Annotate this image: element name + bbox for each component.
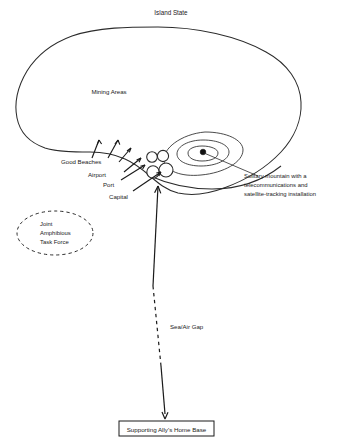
label-sea-air-gap: Sea/Air Gap — [170, 323, 204, 330]
sea-air-gap-axis — [153, 186, 168, 419]
label-port: Port — [103, 181, 114, 188]
label-mountain-note-line1: Solitary mountain with a — [244, 173, 307, 179]
label-task-force-line2: Amphibious — [40, 230, 71, 236]
settlement-circle-capital — [159, 163, 173, 177]
island-state-map: Island State Mining Areas Good Beaches A… — [0, 0, 342, 447]
label-good-beaches: Good Beaches — [61, 158, 101, 165]
mountain-peak-dot — [200, 149, 206, 155]
diagram-canvas: Island State Mining Areas Good Beaches A… — [0, 0, 342, 447]
label-island-state: Island State — [154, 9, 188, 16]
settlement-circle-airport — [147, 152, 158, 163]
label-home-base: Supporting Ally's Home Base — [127, 426, 207, 433]
label-mining-areas: Mining Areas — [91, 88, 126, 95]
label-task-force-line1: Joint — [40, 221, 53, 227]
label-capital: Capital — [109, 193, 128, 200]
label-mountain-note-line2: telecommunications and — [244, 182, 308, 188]
label-airport: Airport — [88, 171, 106, 178]
label-mountain-note-line3: satellite-tracking installation — [244, 191, 316, 197]
settlement-circle-port — [147, 166, 159, 178]
label-task-force-line3: Task Force — [40, 239, 70, 245]
settlement-circle-beach-north — [157, 150, 168, 161]
